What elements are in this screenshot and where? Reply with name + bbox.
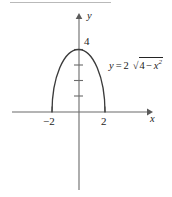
y-axis-label: y [87,11,92,22]
y-tick-label-4: 4 [84,36,90,47]
x-tick-label-neg2: −2 [43,116,55,127]
graph-figure: y x 4 −2 2 y=2√4−x2 [0,0,172,197]
equation-equals-sign: = [116,60,122,71]
equation-radical: √4−x2 [129,57,163,71]
curve-equation-label: y=2√4−x2 [109,57,163,71]
plot-canvas [0,0,172,197]
radicand-exponent: 2 [158,58,162,66]
equation-lhs: y [109,60,114,71]
radicand: 4−x2 [139,57,163,71]
x-tick-label-pos2: 2 [101,116,107,127]
y-axis-arrow-icon [76,13,83,19]
radicand-constant: 4 [140,60,145,71]
x-axis-label: x [150,114,155,125]
radicand-minus-sign: − [146,60,152,71]
